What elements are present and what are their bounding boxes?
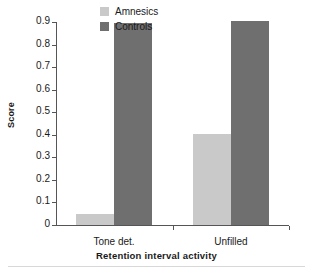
y-tick-label: 0.3 — [36, 150, 50, 161]
legend-item: Controls — [100, 19, 158, 33]
bar-amnesics-1 — [193, 134, 231, 225]
legend-item: Amnesics — [100, 4, 158, 18]
y-tick-mark — [52, 22, 56, 23]
y-tick-label: 0.6 — [36, 83, 50, 94]
x-tick-label: Unfilled — [214, 236, 247, 247]
legend-label: Controls — [115, 21, 152, 32]
legend-swatch-icon — [100, 7, 109, 16]
bar-chart-figure: Score 00.10.20.30.40.50.60.70.80.9 Tone … — [0, 0, 313, 270]
x-tick-mark — [173, 226, 174, 230]
y-tick-label: 0.8 — [36, 38, 50, 49]
y-tick-label: 0.9 — [36, 15, 50, 26]
y-tick-mark — [52, 202, 56, 203]
y-tick-label: 0.7 — [36, 60, 50, 71]
y-tick-mark — [52, 157, 56, 158]
legend-label: Amnesics — [115, 6, 158, 17]
y-tick-label: 0.4 — [36, 128, 50, 139]
y-tick-mark — [52, 225, 56, 226]
x-tick-label: Tone det. — [93, 236, 134, 247]
bar-controls-0 — [114, 23, 152, 225]
y-tick-label: 0 — [44, 218, 50, 229]
y-tick-mark — [52, 180, 56, 181]
x-axis-title: Retention interval activity — [0, 250, 313, 261]
y-axis-line — [56, 22, 57, 226]
y-tick-mark — [52, 45, 56, 46]
chart-legend: AmnesicsControls — [100, 4, 158, 34]
y-tick-mark — [52, 112, 56, 113]
y-tick-label: 0.5 — [36, 105, 50, 116]
bar-amnesics-0 — [76, 214, 114, 225]
plot-area: 00.10.20.30.40.50.60.70.80.9 Tone det.Un… — [56, 22, 289, 226]
y-tick-label: 0.2 — [36, 173, 50, 184]
footer-divider — [8, 266, 305, 267]
bar-controls-1 — [231, 21, 269, 225]
y-tick-label: 0.1 — [36, 195, 50, 206]
y-tick-mark — [52, 90, 56, 91]
y-tick-mark — [52, 135, 56, 136]
y-axis-title: Score — [6, 85, 16, 145]
y-tick-mark — [52, 67, 56, 68]
x-tick-mark — [289, 226, 290, 230]
legend-swatch-icon — [100, 22, 109, 31]
